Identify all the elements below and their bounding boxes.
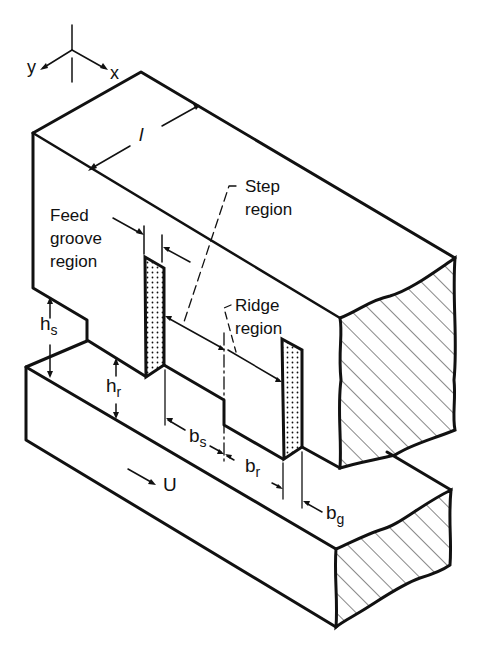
bs-label: bs xyxy=(189,425,207,447)
length-label: l xyxy=(139,124,143,146)
feed-groove-line-3: region xyxy=(50,252,97,272)
axis-y-label: y xyxy=(27,57,36,77)
feed-groove-1 xyxy=(145,257,164,377)
br-label: br xyxy=(245,455,260,477)
velocity-label: U xyxy=(163,474,177,496)
ridge-line-2: region xyxy=(235,319,282,339)
ridge-dimension-line xyxy=(228,350,282,382)
bearing-diagram: y x l Feed groove region Step region Rid… xyxy=(0,0,478,654)
groove-width-leaders xyxy=(113,218,190,262)
step-region-leader xyxy=(184,186,236,322)
velocity-arrow-icon xyxy=(128,469,156,485)
axis-triad-icon xyxy=(40,25,108,82)
hr-label: hr xyxy=(106,375,121,397)
dimension-l xyxy=(88,104,200,171)
step-line-1: Step xyxy=(245,177,280,197)
step-line-2: region xyxy=(245,200,292,220)
feed-groove-2 xyxy=(282,339,302,459)
dimension-bg xyxy=(303,501,322,512)
lower-hatched-section xyxy=(335,490,451,627)
ridge-line-1: Ridge xyxy=(235,296,279,316)
bg-label: bg xyxy=(326,502,344,524)
upper-hatched-section xyxy=(339,258,455,468)
feed-groove-line-2: groove xyxy=(50,229,102,249)
feed-groove-line-1: Feed xyxy=(50,206,89,226)
step-dimension-line xyxy=(165,316,225,350)
axis-x-label: x xyxy=(110,63,119,83)
hs-label: hs xyxy=(40,313,58,335)
